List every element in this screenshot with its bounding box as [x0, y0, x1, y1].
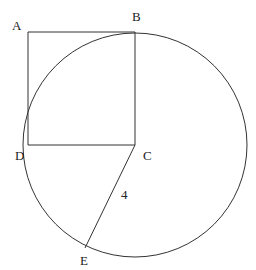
label-point-e: E — [80, 253, 88, 268]
label-point-d: D — [15, 148, 24, 163]
segment-ce — [85, 145, 135, 248]
diagram-svg: A B C D E 4 — [0, 0, 256, 270]
label-point-c: C — [143, 148, 152, 163]
label-point-b: B — [132, 9, 141, 24]
label-segment-ce-length: 4 — [121, 187, 128, 202]
square-abcd — [28, 32, 135, 145]
label-point-a: A — [12, 18, 22, 33]
geometry-diagram: A B C D E 4 — [0, 0, 256, 270]
